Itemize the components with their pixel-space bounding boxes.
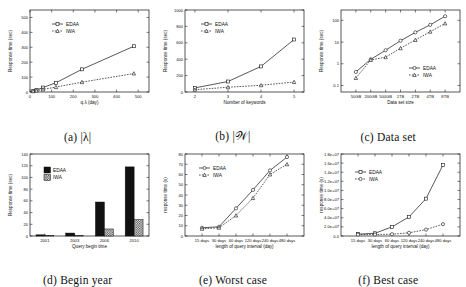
panel-d-svg: 0204060801001201402001200320062010Query …	[0, 144, 155, 262]
legend-label-IWA: IWA	[369, 176, 379, 181]
panel-b: 020040060080010002345Number of keywordsR…	[155, 0, 310, 144]
x-tick-label: 4	[260, 94, 263, 99]
data-point-EDAA	[286, 155, 289, 158]
x-tick-label: 480 days	[279, 237, 296, 242]
panel-e-svg: 0102030405060708015 days30 days60 days12…	[155, 144, 310, 262]
y-tick-label: 1.0e+07	[324, 187, 340, 192]
data-point-IWA	[384, 55, 387, 58]
y-tick-label: 1.8e+07	[324, 151, 340, 156]
panel-e: 0102030405060708015 days30 days60 days12…	[155, 144, 310, 287]
series-line-EDAA	[358, 164, 443, 233]
data-point-IWA	[54, 85, 57, 88]
x-tick-label: 1TB	[396, 94, 404, 99]
x-tick-label: 60 days	[229, 237, 243, 242]
y-tick-label: 6.0e+07	[324, 206, 340, 211]
y-axis-label: Response time (sec)	[8, 29, 13, 72]
data-point-EDAA	[398, 39, 401, 42]
data-point-IWA	[373, 232, 376, 235]
legend-marker-EDAA	[56, 23, 59, 26]
data-point-IWA	[407, 231, 410, 234]
x-tick-label: 0	[29, 94, 32, 99]
panel-c-caption: (c) Data set	[311, 131, 466, 143]
y-tick-label: 120	[21, 163, 29, 168]
panel-f-plot: 0.02.0e+074.0e+076.0e+078.0e+071.0e+071.…	[311, 144, 466, 262]
data-point-EDAA	[252, 188, 255, 191]
panel-a-caption-index: (a)	[64, 131, 77, 143]
bar-EDAA-2001	[36, 234, 45, 235]
legend-marker-EDAA	[359, 170, 362, 173]
data-point-IWA	[428, 30, 431, 33]
x-tick-label: 30 days	[212, 237, 226, 242]
x-axis-label: length of query interval (day)	[371, 243, 430, 248]
data-point-EDAA	[269, 168, 272, 171]
data-point-IWA	[398, 46, 401, 49]
x-tick-label: 15 days	[195, 237, 209, 242]
panel-f-svg: 0.02.0e+074.0e+076.0e+078.0e+071.0e+071.…	[311, 144, 466, 262]
data-point-EDAA	[441, 163, 444, 166]
x-tick-label: 60 days	[384, 237, 398, 242]
data-point-EDAA	[384, 49, 387, 52]
y-tick-label: 80	[179, 151, 184, 156]
y-axis-label: response time (s)	[163, 176, 168, 212]
legend-label-EDAA: EDAA	[53, 167, 67, 172]
series-line-IWA	[195, 82, 294, 90]
x-tick-label: 120 days	[400, 237, 417, 242]
y-tick-label: 10	[179, 223, 184, 228]
y-tick-label: 50	[179, 182, 184, 187]
y-tick-label: 1.6e+07	[324, 160, 340, 165]
y-tick-label: 800	[176, 24, 184, 29]
panel-f-caption-index: (f)	[358, 274, 370, 286]
legend-label-EDAA: EDAA	[215, 22, 229, 27]
panel-d-caption-index: (d)	[43, 274, 57, 286]
y-tick-label: 100	[21, 174, 29, 179]
x-axis-label: length of query interval (day)	[216, 243, 275, 248]
panel-d-caption-text: Begin year	[60, 274, 112, 286]
x-tick-label: 2	[194, 94, 197, 99]
legend-label-IWA: IWA	[423, 73, 433, 78]
panel-a-plot: 01002003004005000100200300400500q.λ (day…	[0, 0, 155, 118]
y-tick-label: 0	[26, 233, 29, 238]
legend-label-IWA: IWA	[213, 172, 223, 177]
series-line-EDAA	[195, 40, 294, 88]
data-point-EDAA	[443, 15, 446, 18]
bar-IWA-2001	[45, 235, 54, 236]
y-tick-label: 0.0	[333, 233, 339, 238]
data-point-EDAA	[354, 70, 357, 73]
x-tick-label: 300	[91, 94, 99, 99]
panel-f: 0.02.0e+074.0e+076.0e+078.0e+071.0e+071.…	[311, 144, 466, 287]
x-tick-label: 3	[227, 94, 230, 99]
x-tick-label: 30 days	[367, 237, 381, 242]
data-point-EDAA	[424, 197, 427, 200]
data-point-EDAA	[390, 225, 393, 228]
x-tick-label: 120 days	[245, 237, 262, 242]
panel-f-caption: (f) Best case	[311, 274, 466, 286]
y-tick-label: 400	[21, 30, 29, 35]
data-point-IWA	[424, 228, 427, 231]
y-tick-label: 60	[179, 172, 184, 177]
panel-c: 0.111010050GB200GB500GB1TB2TB4TB8TBData …	[311, 0, 466, 144]
y-tick-label: 10	[334, 40, 339, 45]
data-point-IWA	[356, 233, 359, 236]
y-tick-label: 1000	[174, 8, 184, 13]
y-tick-label: 30	[179, 202, 184, 207]
panel-a-svg: 01002003004005000100200300400500q.λ (day…	[0, 0, 155, 118]
data-point-IWA	[354, 76, 357, 79]
panel-b-plot: 020040060080010002345Number of keywordsR…	[155, 0, 310, 118]
x-tick-label: 15 days	[350, 237, 364, 242]
legend-swatch-IWA	[44, 174, 51, 180]
data-point-EDAA	[407, 215, 410, 218]
panel-b-caption-index: (b)	[215, 130, 229, 142]
legend-marker-IWA	[358, 177, 361, 180]
x-tick-label: 100	[48, 94, 56, 99]
figure-row-bottom: 0204060801001201402001200320062010Query …	[0, 144, 466, 287]
y-axis-label: response time (s)	[319, 176, 324, 212]
data-point-IWA	[443, 22, 446, 25]
panel-b-svg: 020040060080010002345Number of keywordsR…	[155, 0, 310, 118]
series-line-IWA	[358, 224, 443, 234]
panel-d-caption: (d) Begin year	[0, 274, 155, 286]
panel-e-caption: (e) Worst case	[155, 274, 310, 286]
y-axis-label: Response time (sec)	[163, 29, 168, 72]
data-point-EDAA	[260, 65, 263, 68]
y-tick-label: 0	[181, 90, 184, 95]
y-tick-label: 200	[21, 60, 29, 65]
